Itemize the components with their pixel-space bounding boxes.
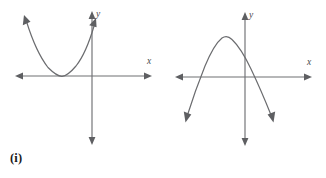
graph-ii-x-axis-label: x	[306, 57, 312, 67]
graph-i-x-axis	[15, 73, 152, 80]
figure-caption-i: (i)	[10, 152, 22, 165]
graph-i-parabola-curve	[27, 22, 95, 77]
graph-ii-curve-left-arrow-icon	[184, 112, 192, 123]
figure-panel-i: x y (i)	[0, 0, 163, 178]
figure-board: x y (i)	[0, 0, 326, 178]
graph-i-y-axis-up-arrow-icon	[89, 11, 96, 19]
graph-ii-y-axis	[242, 12, 249, 146]
graph-ii-y-axis-up-arrow-icon	[242, 12, 249, 20]
figure-panel-ii: x y (ii)	[163, 0, 326, 178]
graph-i-curve-right-arrow-icon	[89, 18, 96, 27]
graph-ii-y-axis-label: y	[248, 10, 254, 20]
graph-i-x-axis-left-arrow-icon	[15, 73, 23, 80]
graph-ii-x-axis-left-arrow-icon	[175, 74, 183, 81]
graph-ii-curve-right-arrow-icon	[268, 112, 276, 123]
graph-i-parabola	[23, 15, 97, 76]
graph-ii-x-axis-right-arrow-icon	[304, 74, 312, 81]
graph-i-canvas: x y	[0, 0, 163, 178]
graph-i-x-axis-right-arrow-icon	[144, 73, 152, 80]
graph-i-y-axis-label: y	[95, 9, 101, 19]
graph-i-x-axis-label: x	[146, 56, 152, 66]
graph-ii-canvas: x y	[163, 0, 326, 178]
graph-ii-y-axis-down-arrow-icon	[242, 138, 249, 146]
graph-ii-x-axis	[175, 74, 312, 81]
graph-i-y-axis-down-arrow-icon	[89, 137, 96, 145]
graph-ii-parabola	[184, 37, 275, 123]
graph-ii-parabola-curve	[188, 37, 272, 115]
